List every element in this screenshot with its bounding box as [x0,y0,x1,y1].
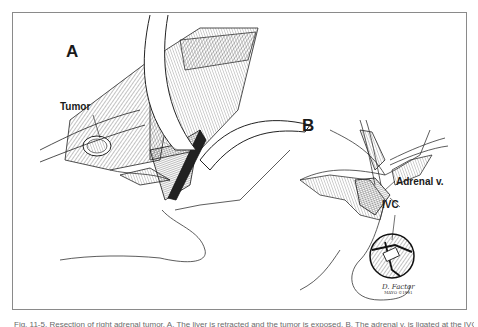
figure-caption: Fig. 11-5. Resection of right adrenal tu… [14,318,474,327]
annotation-tumor: Tumor [60,101,90,112]
artist-signature: D. Factor MAYO ©1991 [382,284,415,295]
annotation-adrenal-vein: Adrenal v. [396,176,444,187]
panel-label-a: A [66,42,78,62]
annotation-ivc: IVC [382,199,399,210]
panel-label-b: B [302,116,314,136]
signature-sub: MAYO ©1991 [382,291,415,295]
